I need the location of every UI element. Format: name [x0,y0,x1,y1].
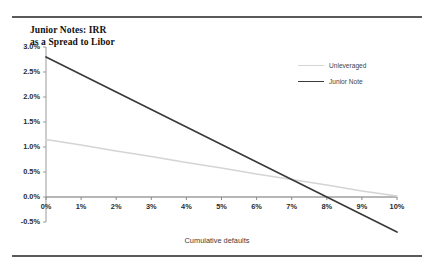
y-axis-tick-label: 0.0% [6,192,40,201]
legend-item-junior-note: Junior Note [298,73,366,89]
x-axis-tick-label: 10% [380,202,414,211]
x-axis-tick-label: 8% [310,202,344,211]
x-axis-tick-label: 7% [275,202,309,211]
y-axis-tick-label: 0.5% [6,167,40,176]
x-axis-tick-label: 6% [240,202,274,211]
y-axis-tick-label: 3.0% [6,42,40,51]
y-axis-tick-label: -0.5% [6,217,40,226]
y-axis-tick-label: 1.0% [6,142,40,151]
legend-label-junior-note: Junior Note [329,78,363,85]
y-axis-tick-label: 2.0% [6,92,40,101]
x-axis-tick-label: 0% [29,202,63,211]
x-axis-tick-label: 2% [99,202,133,211]
x-axis-tick-label: 1% [64,202,98,211]
legend-label-unleveraged: Unleveraged [329,62,366,69]
x-axis-tick-label: 5% [205,202,239,211]
y-axis-tick-label: 1.5% [6,117,40,126]
series-line-unleveraged [46,140,397,197]
legend-line-icon-unleveraged [298,65,324,66]
y-axis-tick-label: 2.5% [6,67,40,76]
chart-legend: Unleveraged Junior Note [298,57,366,89]
x-axis-title: Cumulative defaults [0,236,434,245]
x-axis-tick-label: 9% [345,202,379,211]
plot-area: 3.0%2.5%2.0%1.5%1.0%0.5%0.0%-0.5% 0%1%2%… [0,0,434,273]
figure-panel: Junior Notes: IRR as a Spread to Libor 3… [0,0,434,273]
x-axis-tick-label: 4% [169,202,203,211]
legend-item-unleveraged: Unleveraged [298,57,366,73]
x-axis-tick-label: 3% [134,202,168,211]
plot-svg [0,0,434,273]
legend-line-icon-junior-note [298,81,324,82]
